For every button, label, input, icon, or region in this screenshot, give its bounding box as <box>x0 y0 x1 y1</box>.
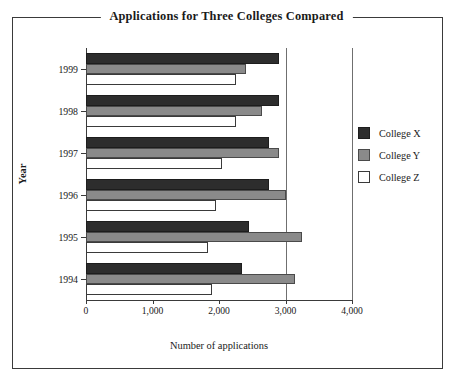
x-axis-tick <box>352 300 353 304</box>
x-axis-tick <box>86 300 87 304</box>
legend-item: College Z <box>358 166 440 188</box>
y-axis-tick-label: 1997 <box>58 148 78 159</box>
x-axis-tick <box>286 300 287 304</box>
legend-item: College Y <box>358 144 440 166</box>
x-axis-tick <box>219 300 220 304</box>
legend-label: College X <box>379 128 421 139</box>
y-axis-tick-label: 1996 <box>58 190 78 201</box>
legend-item: College X <box>358 122 440 144</box>
y-axis-title: Year <box>17 164 28 185</box>
bar <box>86 179 269 190</box>
legend-swatch <box>358 127 370 139</box>
bar <box>86 74 236 85</box>
bar <box>86 263 242 274</box>
bar <box>86 221 249 232</box>
y-axis-tick-label: 1995 <box>58 232 78 243</box>
gridline <box>286 48 287 300</box>
x-axis-tick-label: 2,000 <box>208 305 230 316</box>
x-axis-tick-label: 1,000 <box>142 305 164 316</box>
bar <box>86 200 216 211</box>
legend-swatch <box>358 171 370 183</box>
y-axis-tick-label: 1999 <box>58 64 78 75</box>
bar <box>86 116 236 127</box>
bar <box>86 137 269 148</box>
bar <box>86 148 279 159</box>
x-axis-title: Number of applications <box>86 340 352 351</box>
y-axis-tick-label: 1998 <box>58 106 78 117</box>
x-axis-tick-label: 3,000 <box>275 305 297 316</box>
legend: College XCollege YCollege Z <box>358 122 440 188</box>
legend-swatch <box>358 149 370 161</box>
bar <box>86 274 295 285</box>
bar <box>86 158 222 169</box>
legend-label: College Z <box>379 172 419 183</box>
bar <box>86 64 246 75</box>
plot-area: 01,0002,0003,0004,0001999199819971996199… <box>86 48 352 300</box>
bar <box>86 232 302 243</box>
bar <box>86 106 262 117</box>
bar <box>86 190 286 201</box>
bar <box>86 95 279 106</box>
gridline <box>352 48 353 300</box>
x-axis-tick <box>153 300 154 304</box>
x-axis-tick-label: 0 <box>84 305 89 316</box>
y-axis-tick-label: 1994 <box>58 274 78 285</box>
bar <box>86 284 212 295</box>
legend-label: College Y <box>379 150 420 161</box>
plot-wrapper: 01,0002,0003,0004,0001999199819971996199… <box>0 0 453 378</box>
x-axis-tick-label: 4,000 <box>341 305 363 316</box>
bar <box>86 242 208 253</box>
bar <box>86 53 279 64</box>
